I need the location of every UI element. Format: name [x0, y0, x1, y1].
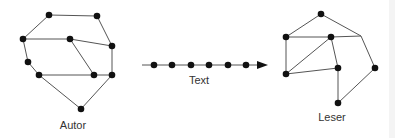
graph-edge [49, 15, 97, 16]
graph-node [372, 65, 379, 72]
graph-edge [39, 75, 81, 109]
edge-strip [389, 0, 395, 138]
text-unit-dot [188, 62, 195, 69]
graph-edge [70, 39, 112, 46]
communication-diagram: Autor Text Leser [0, 0, 395, 138]
graph-node [109, 72, 116, 79]
author-graph [20, 12, 116, 113]
graph-node [20, 36, 27, 43]
graph-node [283, 71, 290, 78]
graph-edge [331, 36, 361, 37]
text-unit-dot [243, 62, 250, 69]
text-chain-arrow [142, 61, 268, 69]
arrowhead-icon [257, 61, 268, 69]
graph-edge [81, 75, 112, 109]
graph-edge [97, 16, 112, 46]
graph-node [335, 65, 342, 72]
graph-node [91, 72, 98, 79]
graph-node [25, 59, 32, 66]
graph-node [109, 43, 116, 50]
text-unit-dot [225, 62, 232, 69]
graph-node [36, 72, 43, 79]
graph-edge [286, 37, 331, 74]
graph-edge [286, 14, 321, 37]
graph-node [78, 106, 85, 113]
graph-edge [23, 15, 49, 39]
text-unit-dot [151, 62, 158, 69]
graph-node [283, 34, 290, 41]
text-unit-dot [169, 62, 176, 69]
graph-node [335, 100, 342, 107]
graph-edge [321, 14, 375, 68]
reader-graph [283, 11, 379, 107]
text-unit-dot [206, 62, 213, 69]
graph-edge [70, 39, 94, 75]
graph-node [46, 12, 53, 19]
graph-node [318, 11, 325, 18]
graph-node [67, 36, 74, 43]
graph-node [94, 13, 101, 20]
text-label: Text [189, 74, 209, 86]
graph-edge [338, 68, 375, 103]
graph-edge [331, 37, 338, 68]
graph-node [328, 34, 335, 41]
graph-edge [23, 39, 28, 62]
author-label: Autor [60, 119, 87, 131]
reader-label: Leser [318, 111, 346, 123]
graph-edge [286, 68, 338, 74]
